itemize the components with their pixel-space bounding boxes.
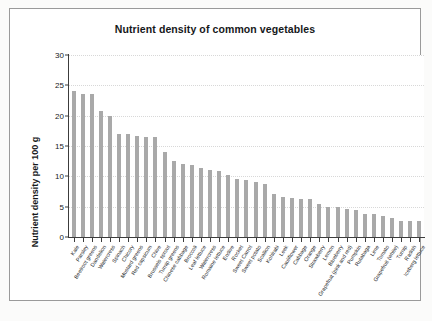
x-tick-mark (101, 238, 102, 242)
y-axis-label: Nutrient density per 100 g (30, 101, 43, 283)
bar[interactable] (144, 137, 148, 237)
x-tick-mark (356, 238, 357, 242)
x-tick-mark (137, 238, 138, 242)
bar[interactable] (244, 180, 248, 237)
x-tick-mark (237, 238, 238, 242)
x-tick-mark (83, 238, 84, 242)
x-tick-mark (274, 238, 275, 242)
x-tick-mark (410, 238, 411, 242)
x-tick-mark (265, 238, 266, 242)
screenshot-page: Nutrient density of common vegetables 05… (0, 0, 432, 321)
x-tick-mark (192, 238, 193, 242)
bar[interactable] (90, 94, 94, 237)
x-tick-mark (146, 238, 147, 242)
bar[interactable] (290, 198, 294, 237)
x-tick-mark (347, 238, 348, 242)
x-tick-mark (374, 238, 375, 242)
x-tick-mark (201, 238, 202, 242)
x-tick-mark (401, 238, 402, 242)
x-tick-mark (155, 238, 156, 242)
x-tick-mark (183, 238, 184, 242)
chart-title: Nutrient density of common vegetables (10, 23, 420, 35)
bar[interactable] (99, 111, 103, 237)
x-tick-mark (165, 238, 166, 242)
x-tick-mark (310, 238, 311, 242)
bar[interactable] (117, 134, 121, 237)
x-tick-mark (228, 238, 229, 242)
x-tick-mark (119, 238, 120, 242)
x-tick-mark (319, 238, 320, 242)
chart-figure: Nutrient density of common vegetables 05… (9, 8, 421, 301)
x-tick-mark (392, 238, 393, 242)
x-tick-mark (419, 238, 420, 242)
bar[interactable] (72, 91, 76, 237)
x-tick-mark (383, 238, 384, 242)
x-tick-mark (301, 238, 302, 242)
x-tick-mark (210, 238, 211, 242)
bar[interactable] (135, 136, 139, 237)
x-tick-mark (338, 238, 339, 242)
x-tick-mark (219, 238, 220, 242)
x-tick-mark (283, 238, 284, 242)
x-tick-mark (247, 238, 248, 242)
x-tick-mark (128, 238, 129, 242)
x-tick-mark (328, 238, 329, 242)
bar[interactable] (81, 94, 85, 237)
x-tick-mark (292, 238, 293, 242)
x-tick-mark (110, 238, 111, 242)
bar[interactable] (172, 161, 176, 237)
x-tick-mark (256, 238, 257, 242)
x-tick-mark (174, 238, 175, 242)
x-tick-mark (74, 238, 75, 242)
x-tick-mark (365, 238, 366, 242)
x-tick-mark (92, 238, 93, 242)
